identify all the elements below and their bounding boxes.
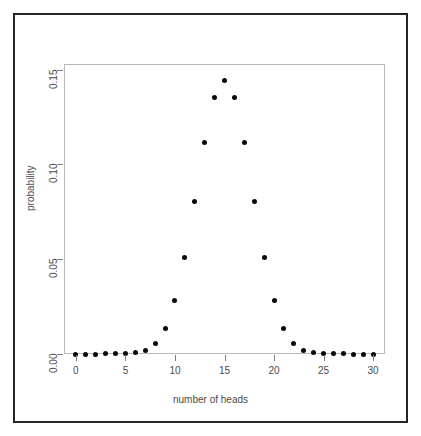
x-tick-mark — [225, 355, 226, 361]
x-tick-mark — [373, 355, 374, 361]
x-tick-mark — [274, 355, 275, 361]
x-tick-label: 5 — [110, 365, 140, 376]
x-tick-label: 10 — [160, 365, 190, 376]
x-tick-mark — [125, 355, 126, 361]
x-tick-mark — [76, 355, 77, 361]
figure-frame: 051015202530 0.000.050.100.15 number of … — [13, 13, 408, 423]
x-tick-mark — [175, 355, 176, 361]
x-tick-label: 20 — [259, 365, 289, 376]
y-tick-label: 0.10 — [48, 164, 59, 204]
x-tick-label: 30 — [358, 365, 388, 376]
x-axis-title: number of heads — [15, 394, 406, 405]
y-tick-label: 0.00 — [48, 354, 59, 394]
x-tick-mark — [324, 355, 325, 361]
y-tick-label: 0.05 — [48, 259, 59, 299]
x-tick-label: 15 — [210, 365, 240, 376]
y-axis-title: probability — [25, 165, 36, 211]
plot-panel — [64, 64, 385, 354]
scatter-chart: 051015202530 0.000.050.100.15 number of … — [15, 15, 406, 421]
x-tick-label: 0 — [61, 365, 91, 376]
y-tick-label: 0.15 — [48, 69, 59, 109]
x-tick-label: 25 — [309, 365, 339, 376]
